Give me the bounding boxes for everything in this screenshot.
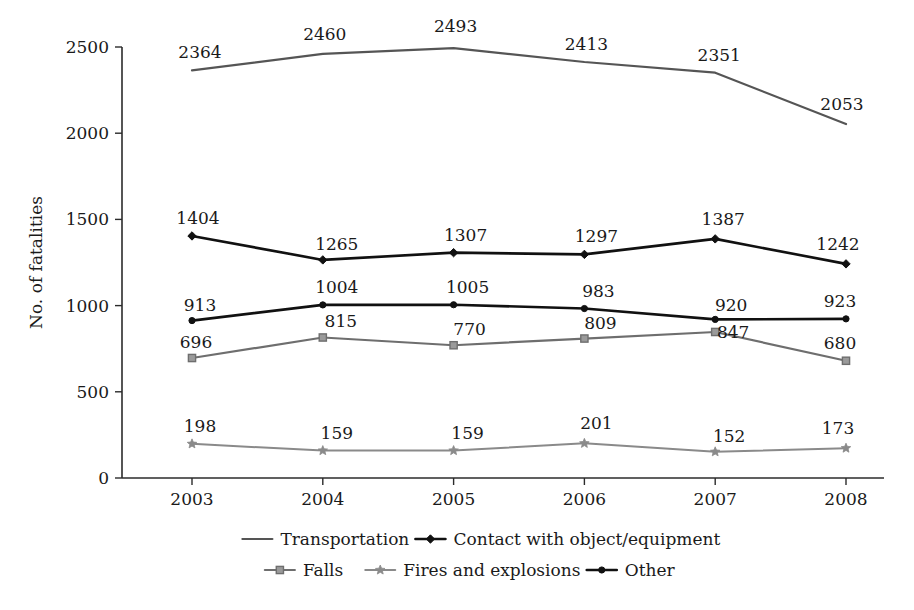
data-point-marker [451,302,457,308]
data-point-marker [188,354,195,361]
chart-legend: TransportationContact with object/equipm… [242,529,720,580]
data-point-marker [842,260,850,268]
data-point-label: 152 [713,426,745,446]
data-point-marker [711,235,719,243]
data-point-label: 809 [584,313,616,333]
legend-item-fires-and-explosions[interactable]: Fires and explosions [365,560,580,580]
data-point-label: 1005 [446,277,489,297]
data-point-marker [318,446,328,455]
series-contact-with-object-equipment [188,232,850,268]
legend-marker-sample [276,566,283,573]
chart-canvas: 0500100015002000250020032004200520062007… [0,0,914,610]
y-tick-label: 1500 [66,209,109,229]
data-point-label: 983 [582,281,614,301]
data-point-marker [581,335,588,342]
x-tick-label: 2003 [170,489,213,509]
data-point-label: 770 [453,319,485,339]
series-fires-and-explosions [187,438,851,455]
series-line [192,305,846,321]
data-point-marker [319,256,327,264]
x-tick-label: 2004 [301,489,344,509]
series-line [192,48,846,124]
data-point-label: 201 [580,413,612,433]
data-label-layer: 2364246024932413235120531404126513071297… [176,16,863,446]
data-point-label: 198 [184,416,216,436]
data-point-marker [580,250,588,258]
series-transportation [192,48,846,124]
data-point-marker [449,446,459,455]
data-point-marker [450,342,457,349]
data-point-label: 159 [451,423,483,443]
series-line [192,443,846,451]
data-point-label: 1387 [702,209,745,229]
data-point-label: 2053 [820,94,863,114]
data-point-marker [843,316,849,322]
data-point-label: 2351 [698,45,741,65]
data-point-label: 696 [180,332,212,352]
legend-marker-sample [375,565,385,574]
y-tick-label: 2500 [66,37,109,57]
data-point-label: 2460 [303,24,346,44]
legend-item-contact-with-object-equipment[interactable]: Contact with object/equipment [415,529,720,549]
y-tick-label: 1000 [66,296,109,316]
data-point-label: 1265 [315,234,358,254]
data-point-label: 2364 [178,42,221,62]
data-point-label: 1242 [816,234,859,254]
y-tick-label: 2000 [66,123,109,143]
legend-label: Fires and explosions [403,560,580,580]
data-point-marker [189,317,195,323]
series-line [192,236,846,264]
data-point-marker [580,438,590,447]
data-point-marker [187,439,197,448]
data-point-marker [710,447,720,456]
legend-label: Transportation [280,529,409,549]
data-point-label: 159 [321,423,353,443]
legend-label: Other [625,560,676,580]
y-tick-label: 500 [77,382,109,402]
data-point-label: 1404 [176,208,219,228]
data-point-label: 923 [824,291,856,311]
x-tick-label: 2006 [563,489,606,509]
legend-marker-sample [426,535,434,543]
data-point-label: 680 [824,333,856,353]
data-point-label: 173 [822,418,854,438]
x-tick-label: 2005 [432,489,475,509]
data-point-marker [319,334,326,341]
fatalities-line-chart: 0500100015002000250020032004200520062007… [0,0,914,610]
data-point-label: 920 [715,295,747,315]
data-point-label: 913 [184,295,216,315]
legend-item-transportation[interactable]: Transportation [242,529,409,549]
data-point-label: 1307 [444,225,487,245]
data-point-label: 2493 [434,16,477,36]
series-falls [188,328,849,364]
legend-item-falls[interactable]: Falls [265,560,343,580]
legend-item-other[interactable]: Other [587,560,676,580]
data-point-label: 2413 [565,34,608,54]
x-tick-label: 2008 [824,489,867,509]
legend-marker-sample [599,567,605,573]
series-other [189,302,849,324]
data-point-label: 1004 [315,277,358,297]
data-point-label: 847 [717,322,749,342]
data-point-marker [188,232,196,240]
data-point-label: 815 [325,311,357,331]
data-point-label: 1297 [575,226,618,246]
x-tick-label: 2007 [694,489,737,509]
y-axis-title: No. of fatalities [26,196,46,329]
data-point-marker [449,248,457,256]
series-layer [187,48,851,456]
data-point-marker [842,357,849,364]
legend-label: Contact with object/equipment [453,529,720,549]
y-tick-label: 0 [98,468,109,488]
legend-label: Falls [303,560,343,580]
data-point-marker [581,305,587,311]
data-point-marker [841,443,851,452]
data-point-marker [320,302,326,308]
